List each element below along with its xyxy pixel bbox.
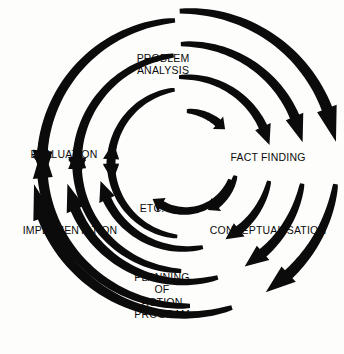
stage-label-etc: ETC.	[140, 202, 165, 214]
cycle-diagram: PROBLEM ANALYSIS FACT FINDING CONCEPTUAL…	[0, 0, 344, 354]
arc-problem-analysis-to-fact-finding-4	[187, 109, 225, 130]
stage-label-conceptualisation: CONCEPTUALISATION	[210, 224, 326, 236]
stage-label-planning-of-action-program: PLANNING OF ACTION PROGRAM	[134, 271, 190, 321]
stage-label-fact-finding: FACT FINDING	[230, 151, 305, 163]
stage-label-implementation: IMPLEMENTATION	[23, 224, 118, 236]
arc-evaluation-to-problem-analysis-3	[103, 88, 175, 181]
stage-label-problem-analysis: PROBLEM ANALYSIS	[137, 52, 190, 77]
stage-label-evaluation: EVALUATION	[31, 148, 98, 160]
arc-problem-analysis-to-fact-finding-2	[181, 41, 304, 142]
